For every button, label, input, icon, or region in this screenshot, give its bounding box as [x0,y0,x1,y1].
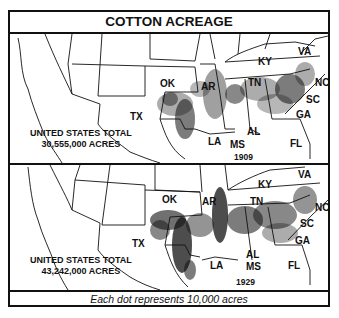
state-label-ms: MS [230,140,245,150]
state-label-fl: FL [290,139,302,149]
legend-caption: Each dot represents 10,000 acres [10,292,328,307]
state-label-al: AL [247,127,260,137]
total-value: 43,242,000 ACRES [30,266,132,277]
state-label-nc: NC [315,78,328,88]
state-label-va: VA [298,170,311,180]
state-label-ok: OK [162,195,177,205]
state-label-ga: GA [296,110,311,120]
state-label-ms: MS [246,262,261,272]
state-label-la: LA [208,137,221,147]
state-label-nc: NC [315,203,328,213]
state-label-tx: TX [130,112,143,122]
state-label-fl: FL [288,261,300,271]
map-1909: OK AR KY TN VA NC SC GA FL AL MS LA TX U… [10,34,328,165]
state-label-la: LA [210,261,223,271]
state-label-ga: GA [295,236,310,246]
state-label-ky: KY [258,180,272,190]
state-label-sc: SC [300,219,314,229]
state-label-tn: TN [248,78,261,88]
total-label: UNITED STATES TOTAL [30,128,132,139]
state-label-ar: AR [201,82,215,92]
us-total-1909: UNITED STATES TOTAL 30,555,000 ACRES [30,128,132,150]
state-label-ar: AR [202,197,216,207]
state-label-al: AL [246,250,259,260]
total-value: 30,555,000 ACRES [30,139,132,150]
state-label-ky: KY [258,57,272,67]
state-label-tn: TN [250,197,263,207]
us-total-1929: UNITED STATES TOTAL 43,242,000 ACRES [30,255,132,277]
year-label: 1909 [234,152,253,162]
state-label-ok: OK [160,79,175,89]
state-label-tx: TX [132,239,145,249]
year-label: 1929 [236,277,255,287]
state-label-va: VA [298,47,311,57]
state-label-sc: SC [306,95,320,105]
map-figure: COTTON ACREAGE [8,10,330,307]
total-label: UNITED STATES TOTAL [30,255,132,266]
map-1929: OK AR KY TN VA NC SC GA FL AL MS LA TX U… [10,165,328,292]
figure-title: COTTON ACREAGE [10,12,328,34]
